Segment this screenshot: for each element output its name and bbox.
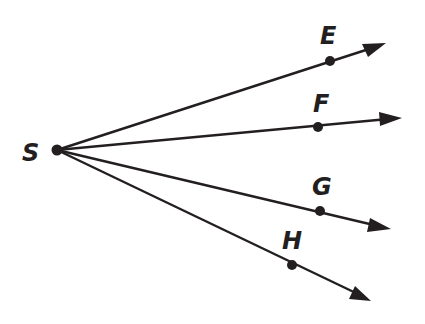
- label-e: E: [320, 22, 337, 50]
- ray-sh-line: [57, 150, 360, 295]
- point-h: [287, 260, 297, 270]
- label-h: H: [282, 227, 302, 255]
- arrowhead-icon: [362, 43, 386, 57]
- ray-diagram: E F G H S: [0, 0, 425, 324]
- arrowhead-icon: [367, 218, 391, 232]
- point-f: [313, 122, 323, 132]
- arrowhead-icon: [349, 286, 371, 301]
- ray-sf: F: [57, 90, 402, 150]
- point-g: [315, 206, 325, 216]
- label-g: G: [312, 173, 332, 201]
- point-s: [52, 145, 63, 156]
- ray-se: E: [57, 22, 386, 150]
- arrowhead-icon: [379, 112, 402, 126]
- point-e: [325, 56, 335, 66]
- label-s: S: [22, 139, 39, 167]
- label-f: F: [313, 90, 330, 118]
- ray-sg: G: [57, 150, 391, 232]
